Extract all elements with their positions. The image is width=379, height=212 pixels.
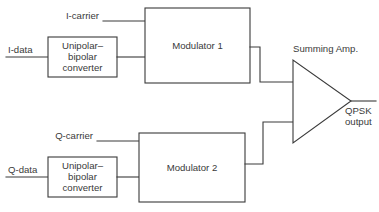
- label-qpsk-output-line2: output: [345, 116, 372, 127]
- block-label-i-converter-line3: converter: [63, 62, 104, 73]
- label-q-data: Q-data: [8, 164, 38, 175]
- label-i-carrier: I-carrier: [66, 10, 100, 21]
- wire-modulator1-to-summing-amp: [250, 47, 293, 82]
- block-label-modulator-2: Modulator 2: [167, 162, 218, 173]
- block-label-i-converter-line2: bipolar: [68, 51, 98, 62]
- block-label-q-converter-line3: converter: [63, 182, 104, 193]
- block-label-q-converter-line1: Unipolar–: [62, 160, 104, 171]
- label-qpsk-output-line1: QPSK: [345, 105, 372, 116]
- qpsk-modulator-diagram: Unipolar– bipolar converter Modulator 1 …: [0, 0, 379, 212]
- wire-modulator2-to-summing-amp: [245, 122, 293, 164]
- diagram-canvas: Unipolar– bipolar converter Modulator 1 …: [0, 0, 379, 212]
- block-label-i-converter-line1: Unipolar–: [62, 40, 104, 51]
- summing-amplifier-triangle: [293, 60, 351, 143]
- block-label-q-converter-line2: bipolar: [68, 171, 98, 182]
- block-label-modulator-1: Modulator 1: [172, 40, 223, 51]
- label-i-data: I-data: [8, 44, 33, 55]
- label-summing-amp: Summing Amp.: [293, 43, 358, 54]
- label-q-carrier: Q-carrier: [55, 130, 94, 141]
